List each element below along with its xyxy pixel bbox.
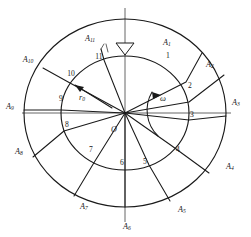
outer-label-a3: A3 — [231, 98, 240, 108]
polar-spoke-diagram: O r0 ω A1 A2 A3 A4 A5 A6 A7 A8 A9 A10 A1… — [0, 0, 251, 237]
inner-label-1: 1 — [166, 51, 170, 60]
a11-tick — [101, 44, 104, 49]
radius-arrowhead — [75, 85, 84, 92]
inner-label-8: 8 — [65, 120, 69, 129]
spoke-3 — [125, 113, 226, 120]
omega-label: ω — [160, 94, 166, 103]
outer-label-a9: A9 — [5, 102, 14, 112]
inner-label-10: 10 — [67, 69, 75, 78]
inner-label-4: 4 — [176, 145, 180, 154]
outer-label-a5: A5 — [177, 205, 186, 215]
outer-label-a6: A6 — [122, 222, 131, 232]
inner-label-6: 6 — [120, 158, 124, 167]
a11-tick-secondary — [106, 44, 108, 52]
spoke-2 — [125, 75, 224, 113]
inner-label-9: 9 — [59, 94, 63, 103]
outer-label-a10: A10 — [22, 55, 34, 65]
inner-label-11: 11 — [95, 52, 103, 61]
outer-label-a2: A2 — [205, 60, 214, 70]
spoke-5 — [125, 113, 170, 201]
outer-label-a7: A7 — [79, 202, 88, 212]
inner-label-3: 3 — [190, 110, 194, 119]
outer-label-a4: A4 — [225, 162, 234, 172]
outer-label-a11: A11 — [84, 34, 95, 44]
outer-label-a8: A8 — [14, 147, 23, 157]
inner-label-7: 7 — [89, 145, 93, 154]
spoke-4 — [125, 113, 209, 173]
radius-label: r0 — [79, 93, 85, 103]
outer-label-a1: A1 — [162, 38, 171, 48]
center-label: O — [111, 125, 117, 134]
outer-labels-group: A1 A2 A3 A4 A5 A6 A7 A8 A9 A10 A11 — [5, 34, 240, 232]
inner-label-2: 2 — [188, 81, 192, 90]
radius-label-group: r0 — [79, 93, 85, 103]
inner-label-5: 5 — [143, 157, 147, 166]
down-triangle-icon — [116, 43, 134, 55]
figure-canvas: O r0 ω A1 A2 A3 A4 A5 A6 A7 A8 A9 A10 A1… — [0, 0, 251, 237]
